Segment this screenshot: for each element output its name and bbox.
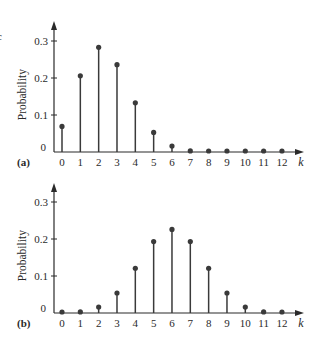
stem-marker <box>243 304 248 309</box>
stem-marker <box>261 148 266 153</box>
stem-marker <box>114 290 119 295</box>
stem-marker <box>169 227 174 232</box>
x-tick-label: 6 <box>169 317 175 329</box>
stem-marker <box>261 309 266 314</box>
x-tick-label: 3 <box>114 156 120 168</box>
x-tick-label: 12 <box>276 317 287 329</box>
x-tick-label: 4 <box>133 156 139 168</box>
stem-marker <box>279 309 284 314</box>
stem-marker <box>151 130 156 135</box>
panel-label: (a) <box>17 156 30 169</box>
figure: c 00.10.20.3Probability(a)01234567891011… <box>0 0 320 337</box>
stem-marker <box>133 266 138 271</box>
x-tick-label: 10 <box>240 317 252 329</box>
x-tick-label: 6 <box>169 156 175 168</box>
x-tick-label: 8 <box>206 156 212 168</box>
x-tick-label: 9 <box>224 156 230 168</box>
stem-marker <box>133 100 138 105</box>
stem-marker <box>188 239 193 244</box>
clipped-glyph: c <box>0 30 2 42</box>
stem-marker <box>59 124 64 129</box>
stem-marker <box>78 309 83 314</box>
x-tick-label: 7 <box>188 317 194 329</box>
x-tick-label: 0 <box>59 317 65 329</box>
y-tick-label: 0 <box>41 302 47 314</box>
stem-marker <box>224 148 229 153</box>
x-tick-label: 4 <box>133 317 139 329</box>
y-tick-label: 0.1 <box>34 270 48 282</box>
x-tick-label: 2 <box>96 317 102 329</box>
x-tick-label: 2 <box>96 156 102 168</box>
x-tick-label: 9 <box>224 317 230 329</box>
y-axis-title: Probability <box>16 230 29 281</box>
x-tick-label: 3 <box>114 317 120 329</box>
y-tick-label: 0.2 <box>34 233 48 245</box>
stem-marker <box>151 239 156 244</box>
x-tick-label: 0 <box>59 156 65 168</box>
x-tick-label: 7 <box>188 156 194 168</box>
x-tick-label: 11 <box>258 156 269 168</box>
x-tick-label: 12 <box>276 156 287 168</box>
y-tick-label: 0.3 <box>34 196 48 208</box>
x-tick-label: 1 <box>78 317 84 329</box>
panel-label: (b) <box>17 317 31 330</box>
y-axis-arrow-icon <box>51 21 57 30</box>
x-axis-title: k <box>298 155 304 169</box>
stem-marker <box>206 266 211 271</box>
x-axis-title: k <box>298 316 304 330</box>
y-axis-title: Probability <box>16 69 29 120</box>
y-tick-label: 0.2 <box>34 72 48 84</box>
x-tick-label: 10 <box>240 156 252 168</box>
x-tick-label: 1 <box>78 156 84 168</box>
stem-marker <box>206 148 211 153</box>
panel-b: 00.10.20.3Probability(b)0123456789101112… <box>16 183 304 330</box>
stem-marker <box>59 309 64 314</box>
y-axis-arrow-icon <box>51 183 57 192</box>
x-tick-label: 5 <box>151 156 157 168</box>
x-tick-label: 11 <box>258 317 269 329</box>
stem-marker <box>243 148 248 153</box>
panel-a: 00.10.20.3Probability(a)0123456789101112… <box>16 21 304 169</box>
stem-marker <box>188 148 193 153</box>
stem-marker <box>78 73 83 78</box>
x-tick-label: 8 <box>206 317 212 329</box>
x-tick-label: 5 <box>151 317 157 329</box>
y-tick-label: 0 <box>41 141 47 153</box>
stem-marker <box>224 290 229 295</box>
y-tick-label: 0.3 <box>34 35 48 47</box>
stem-marker <box>96 45 101 50</box>
stem-marker <box>96 304 101 309</box>
stem-marker <box>114 62 119 67</box>
stem-marker <box>279 148 284 153</box>
stem-marker <box>169 143 174 148</box>
y-tick-label: 0.1 <box>34 109 48 121</box>
